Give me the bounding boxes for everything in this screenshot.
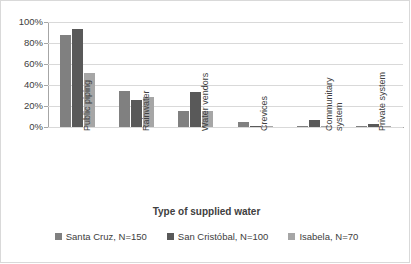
bar[interactable] (297, 126, 308, 127)
legend-color-swatch (55, 233, 62, 240)
bar-cluster (344, 22, 403, 127)
y-axis-tick-mark (44, 22, 48, 23)
y-axis-tick-label: 100% (3, 17, 43, 27)
x-axis-title: Type of supplied water (1, 206, 411, 217)
legend-item[interactable]: Santa Cruz, N=150 (55, 231, 147, 242)
y-axis-tick-label: 80% (3, 38, 43, 48)
chart-legend: Santa Cruz, N=150San Cristóbal, N=100Isa… (1, 231, 411, 242)
bar[interactable] (238, 122, 249, 127)
bar[interactable] (309, 120, 320, 127)
legend-label: Isabela, N=70 (299, 231, 358, 242)
bar-cluster (166, 22, 225, 127)
y-axis-tick-label: 0% (3, 122, 43, 132)
legend-item[interactable]: San Cristóbal, N=100 (167, 231, 269, 242)
y-axis-tick-label: 20% (3, 101, 43, 111)
y-axis-tick-label: 60% (3, 59, 43, 69)
legend-label: San Cristóbal, N=100 (178, 231, 269, 242)
y-axis-tick-mark (44, 106, 48, 107)
legend-color-swatch (288, 233, 295, 240)
legend-label: Santa Cruz, N=150 (66, 231, 147, 242)
y-axis-tick-mark (44, 43, 48, 44)
bar-cluster (107, 22, 166, 127)
y-axis-tick-label: 40% (3, 80, 43, 90)
plot-area (48, 22, 403, 127)
x-axis-tick-label: Communitary system (324, 57, 344, 131)
bar[interactable] (178, 111, 189, 127)
bar[interactable] (119, 91, 130, 127)
x-axis-tick-label: Water vendors (200, 57, 210, 131)
y-axis-tick-labels: 0%20%40%60%80%100% (1, 1, 43, 151)
bar[interactable] (60, 35, 71, 127)
y-axis-tick-mark (44, 64, 48, 65)
bar-cluster (48, 22, 107, 127)
x-axis-tick-label: Private system (377, 57, 387, 131)
x-axis-tick-label: Rainwater (141, 57, 151, 131)
chart-container: 0%20%40%60%80%100% Public pipingRainwate… (0, 0, 410, 263)
x-axis-tick-label: Crevices (259, 57, 269, 131)
gridline (48, 127, 403, 128)
legend-item[interactable]: Isabela, N=70 (288, 231, 358, 242)
legend-color-swatch (167, 233, 174, 240)
y-axis-tick-mark (44, 127, 48, 128)
bar-cluster (226, 22, 285, 127)
bar[interactable] (356, 126, 367, 127)
y-axis-tick-mark (44, 85, 48, 86)
x-axis-tick-label: Public piping (82, 57, 92, 131)
